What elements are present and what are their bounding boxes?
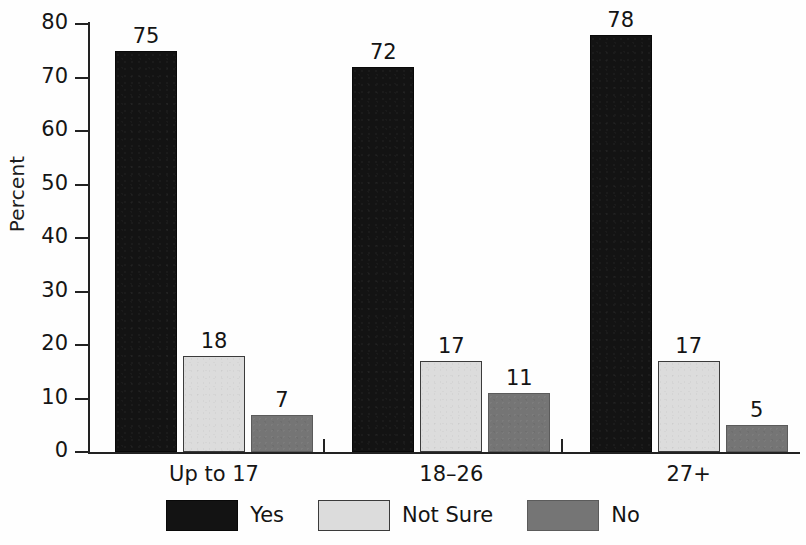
bar-notsure: 18: [183, 356, 245, 452]
bar-value-label: 11: [506, 366, 533, 390]
y-axis-title: Percent: [5, 139, 29, 249]
legend-label: Not Sure: [402, 503, 493, 528]
bar-no: 5: [726, 425, 788, 452]
bar-notsure: 17: [420, 361, 482, 452]
plot-area: 80706050403020100 7518772171178175: [88, 24, 800, 452]
legend-item-yes: Yes: [166, 500, 284, 531]
y-tick: 60: [75, 130, 88, 132]
legend-item-no: No: [527, 500, 640, 531]
y-tick: 20: [75, 344, 88, 346]
y-tick-label: 0: [55, 438, 68, 462]
bar-no: 11: [488, 393, 550, 452]
bar-value-label: 17: [675, 334, 702, 358]
y-tick: 40: [75, 237, 88, 239]
y-tick: 50: [75, 184, 88, 186]
y-tick: 0: [75, 451, 88, 453]
legend-swatch-notsure: [318, 500, 390, 531]
y-tick-label: 20: [41, 331, 68, 355]
legend-swatch-yes: [166, 500, 238, 531]
bar-notsure: 17: [658, 361, 720, 452]
legend-label: No: [611, 503, 640, 528]
y-tick-label: 40: [41, 224, 68, 248]
x-tick: [561, 439, 563, 452]
y-tick: 30: [75, 291, 88, 293]
bar-yes: 75: [115, 51, 177, 452]
legend: YesNot SureNo: [0, 500, 806, 531]
bar-value-label: 7: [275, 388, 288, 412]
y-tick-label: 10: [41, 385, 68, 409]
y-tick-label: 70: [41, 64, 68, 88]
y-tick: 10: [75, 398, 88, 400]
bar-value-label: 75: [133, 24, 160, 48]
x-axis-label: 18–26: [351, 462, 551, 487]
y-tick: 80: [75, 23, 88, 25]
x-axis-label: 27+: [589, 462, 789, 487]
bar-yes: 78: [590, 35, 652, 452]
bar-no: 7: [251, 415, 313, 452]
bar-value-label: 78: [607, 8, 634, 32]
y-tick-label: 50: [41, 171, 68, 195]
y-tick-label: 60: [41, 117, 68, 141]
legend-item-notsure: Not Sure: [318, 500, 493, 531]
x-axis-line: [88, 452, 800, 454]
y-tick: 70: [75, 77, 88, 79]
y-tick-label: 30: [41, 278, 68, 302]
bar-value-label: 17: [438, 334, 465, 358]
legend-swatch-no: [527, 500, 599, 531]
x-axis-label: Up to 17: [114, 462, 314, 487]
bar-value-label: 72: [370, 40, 397, 64]
x-tick: [323, 439, 325, 452]
y-tick-label: 80: [41, 10, 68, 34]
bar-chart: Percent 80706050403020100 75187721711781…: [0, 0, 806, 545]
bar-yes: 72: [352, 67, 414, 452]
bar-value-label: 18: [201, 329, 228, 353]
legend-label: Yes: [250, 503, 284, 528]
bar-value-label: 5: [750, 398, 763, 422]
